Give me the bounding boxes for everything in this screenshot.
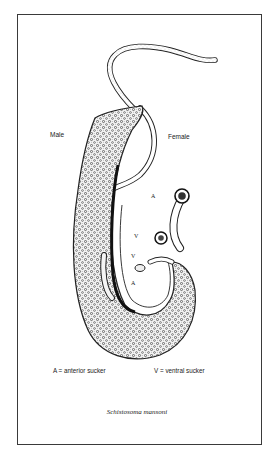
label-male-ventral-sucker: V: [131, 253, 135, 259]
label-female: Female: [168, 133, 190, 140]
label-male-anterior-sucker: A: [131, 280, 135, 286]
legend-ventral-sucker: V = ventral sucker: [154, 367, 205, 374]
figure-caption: Schistosoma mansoni: [0, 408, 274, 416]
legend-anterior-sucker: A = anterior sucker: [53, 367, 106, 374]
label-male: Male: [50, 131, 64, 138]
male-anterior-sucker: [135, 265, 145, 272]
label-female-anterior-sucker: A: [151, 193, 155, 199]
schistosoma-illustration: [0, 0, 274, 457]
label-female-ventral-sucker: V: [134, 233, 138, 239]
